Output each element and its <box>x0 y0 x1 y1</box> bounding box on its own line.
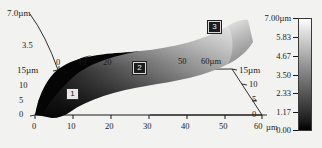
colorbar-gradient-strip <box>298 18 312 131</box>
x-axis-front-label-0: 0 <box>32 122 36 131</box>
colorbar-tick-3 <box>293 75 298 76</box>
x-axis-back-label-60: 60µm <box>201 57 221 66</box>
x-axis-front <box>35 115 262 119</box>
x-axis-back-label-20: 20 <box>103 58 112 67</box>
y-axis-right-label-10: 10 <box>249 80 258 89</box>
y-axis-right-label-15: 15µm <box>239 66 260 75</box>
region-callout-3[interactable]: 3 <box>208 21 221 33</box>
colorbar-tick-2 <box>293 56 298 57</box>
y-axis-right-label-0: 0 <box>252 110 256 119</box>
y-axis-right-label-5: 5 <box>252 95 256 104</box>
colorbar-tick-4 <box>293 93 298 94</box>
colorbar-tick-6 <box>293 130 298 131</box>
colorbar-label-117: 1.17 <box>276 108 291 117</box>
z-axis-label-mid: 3.5 <box>22 41 33 50</box>
y-axis-left-label-15: 15µm <box>17 66 38 75</box>
x-axis-front-label-30: 30 <box>143 122 152 131</box>
colorbar-label-233: 2.33 <box>276 89 291 98</box>
colorbar-tick-0 <box>293 18 298 19</box>
region-callout-1[interactable]: 1 <box>66 88 79 100</box>
surface-plot-figure: 7.0µm 3.5 15µm 10 5 0 0 10 20 50 60µm 15… <box>0 0 322 148</box>
colorbar-label-000: 0.00 <box>276 126 291 135</box>
x-axis-back-label-0: 0 <box>56 58 60 67</box>
colorbar-label-583: 5.83 <box>276 33 291 42</box>
x-axis-front-label-60: 60 <box>254 122 263 131</box>
z-axis-label-top: 7.0µm <box>7 9 30 18</box>
y-axis-left-label-5: 5 <box>19 96 23 105</box>
colorbar-label-700: 7.00µm <box>265 14 291 23</box>
colorbar-label-467: 4.67 <box>276 51 291 60</box>
y-axis-left-label-10: 10 <box>19 81 28 90</box>
y-axis-right <box>232 69 267 115</box>
colorbar-tick-5 <box>293 112 298 113</box>
x-axis-front-label-40: 40 <box>181 122 190 131</box>
x-axis-front-label-10: 10 <box>67 122 76 131</box>
x-axis-front-label-20: 20 <box>105 122 114 131</box>
y-axis-left-label-0: 0 <box>19 110 23 119</box>
x-axis-back-label-10: 10 <box>78 58 87 67</box>
height-colorbar: 7.00µm 5.83 4.67 3.50 2.33 1.17 0.00 <box>298 18 312 131</box>
colorbar-tick-1 <box>293 37 298 38</box>
region-callout-2[interactable]: 2 <box>133 62 146 74</box>
colorbar-label-350: 3.50 <box>276 70 291 79</box>
x-axis-back-label-50: 50 <box>178 57 187 66</box>
x-axis-front-label-50: 50 <box>219 122 228 131</box>
